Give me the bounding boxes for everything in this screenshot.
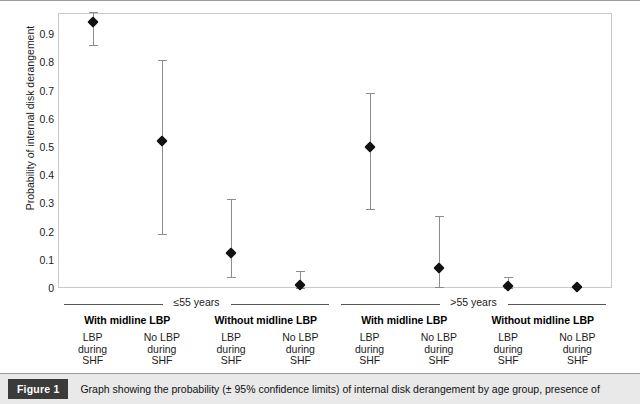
x-axis-category-line: No LBP xyxy=(404,332,473,344)
x-axis-category-label: No LBPduringSHF xyxy=(127,332,196,367)
figure-caption-text: Graph showing the probability (± 95% con… xyxy=(80,383,599,396)
midline-group-label: Without midline LBP xyxy=(474,314,613,326)
error-bar-cap-upper xyxy=(89,12,98,13)
figure-number-tag: Figure 1 xyxy=(8,379,68,399)
age-group-rule-right xyxy=(231,304,330,305)
midline-group-label: Without midline LBP xyxy=(197,314,336,326)
error-bar-cap-upper xyxy=(296,271,305,272)
x-axis-category-line: SHF xyxy=(127,355,196,367)
x-axis-category-line: SHF xyxy=(335,355,404,367)
error-bar-line xyxy=(439,216,440,287)
figure-caption-bar: Figure 1 Graph showing the probability (… xyxy=(0,374,640,404)
x-axis-category-label: LBPduringSHF xyxy=(335,332,404,367)
x-axis-category-line: LBP xyxy=(197,332,266,344)
x-axis-category-label: LBPduringSHF xyxy=(197,332,266,367)
error-bar-cap-lower xyxy=(366,209,375,210)
error-bar-cap-upper xyxy=(435,216,444,217)
x-axis-category-line: SHF xyxy=(197,355,266,367)
x-axis-category-label: No LBPduringSHF xyxy=(266,332,335,367)
x-axis-category-label: LBPduringSHF xyxy=(474,332,543,367)
y-axis-tick-label: 0 xyxy=(20,283,54,293)
error-bar-cap-upper xyxy=(158,60,167,61)
x-axis-category-label: No LBPduringSHF xyxy=(404,332,473,367)
error-bar-cap-lower xyxy=(89,45,98,46)
chart-area: 0.90.80.70.60.50.40.30.20.10 Probability… xyxy=(0,0,640,296)
age-group-rule-left xyxy=(64,304,163,305)
x-axis-category-line: SHF xyxy=(543,355,612,367)
x-axis-category-line: SHF xyxy=(58,355,127,367)
y-axis-title: Probability of internal disk derangement xyxy=(24,0,36,248)
x-axis-category-line: LBP xyxy=(335,332,404,344)
age-group-rule-left xyxy=(341,304,440,305)
x-axis-category-line: LBP xyxy=(474,332,543,344)
error-bar-cap-upper xyxy=(504,277,513,278)
error-bar-cap-lower xyxy=(435,287,444,288)
x-axis-category-line: SHF xyxy=(474,355,543,367)
y-axis-tick-label: 0.1 xyxy=(20,255,54,265)
x-axis-category-line: SHF xyxy=(266,355,335,367)
midline-group-label: With midline LBP xyxy=(58,314,197,326)
figure-panel: 0.90.80.70.60.50.40.30.20.10 Probability… xyxy=(0,0,640,404)
x-axis-category-label: LBPduringSHF xyxy=(58,332,127,367)
x-axis-category-line: No LBP xyxy=(127,332,196,344)
x-axis-category-line: No LBP xyxy=(266,332,335,344)
error-bar-cap-lower xyxy=(227,277,236,278)
error-bar-cap-upper xyxy=(227,199,236,200)
x-axis-category-label: No LBPduringSHF xyxy=(543,332,612,367)
age-group-rule-right xyxy=(508,304,607,305)
x-axis-category-line: SHF xyxy=(404,355,473,367)
error-bar-line xyxy=(231,199,232,277)
plot-frame xyxy=(58,13,612,288)
x-axis-category-line: No LBP xyxy=(543,332,612,344)
x-axis-area: ≤55 years>55 yearsWith midline LBPWithou… xyxy=(0,296,640,373)
error-bar-cap-upper xyxy=(366,93,375,94)
x-axis-category-line: LBP xyxy=(58,332,127,344)
midline-group-label: With midline LBP xyxy=(335,314,474,326)
age-group-label: ≤55 years xyxy=(163,296,231,308)
age-group-label: >55 years xyxy=(440,296,508,308)
error-bar-line xyxy=(162,60,163,235)
error-bar-cap-lower xyxy=(158,234,167,235)
